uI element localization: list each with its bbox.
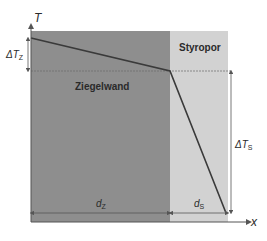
brick-wall-label: Ziegelwand (75, 81, 129, 92)
styropor-label: Styropor (179, 42, 221, 53)
delta-tz-label: ΔTZ (5, 49, 24, 61)
y-axis-label: T (34, 11, 43, 25)
delta-ts-label: ΔTS (234, 139, 253, 151)
brick-wall-region (31, 31, 170, 222)
styropor-region (170, 31, 228, 222)
x-axis-label: x (250, 215, 258, 229)
temperature-profile-diagram: T x Ziegelwand Styropor ΔTZ ΔTS dZ dS (0, 0, 267, 241)
